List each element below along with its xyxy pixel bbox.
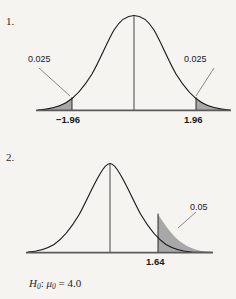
x-tick-label-positive-1-96: 1.96: [184, 115, 203, 125]
left-tail-probability-label: 0.025: [28, 55, 51, 64]
hypothesis-parameter-subscript: 0: [52, 282, 56, 291]
right-tail-probability-label-2: 0.05: [190, 203, 208, 212]
right-annotation-leader-line-2: [178, 212, 196, 228]
right-tail-shaded-region-2: [158, 214, 212, 252]
right-tail-probability-label: 0.025: [184, 55, 207, 64]
hypothesis-relation: =: [59, 277, 65, 289]
hypothesis-colon: :: [41, 277, 44, 289]
x-tick-label-negative-1-96: −1.96: [56, 115, 80, 125]
normal-curve-2: [28, 164, 212, 253]
right-annotation-leader-line: [196, 68, 214, 96]
hypothesis-symbol: H: [29, 277, 37, 289]
item-number-2: 2.: [6, 152, 14, 163]
left-annotation-leader-line: [39, 68, 70, 96]
right-tail-shaded-region: [196, 97, 230, 110]
x-tick-label-1-64: 1.64: [146, 257, 165, 267]
null-hypothesis-statement: H0: μ0 = 4.0: [29, 278, 81, 289]
page-canvas: 1. 0.025 0.025 −1.96 1.96 2.: [0, 0, 236, 299]
hypothesis-symbol-subscript: 0: [37, 282, 41, 291]
hypothesis-value: 4.0: [68, 277, 82, 289]
left-tail-shaded-region: [38, 97, 72, 110]
